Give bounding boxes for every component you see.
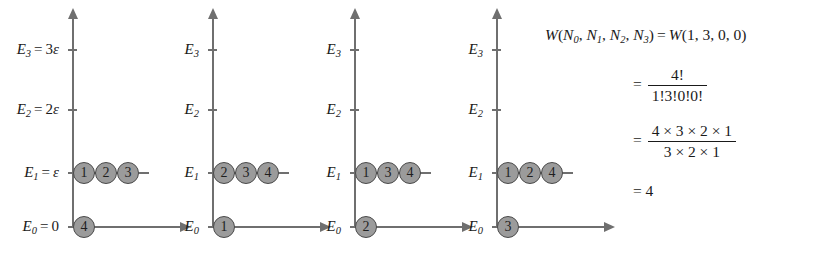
level-tick-E2 (492, 109, 501, 111)
equation-block: W(N0, N1, N2, N3) = W(1, 3, 0, 0)= 4!1!3… (545, 14, 836, 229)
particle-ball: 1 (497, 162, 519, 184)
level-tick-E3 (350, 49, 359, 51)
level-label-E3: E3 (251, 42, 341, 61)
equation-line-4: = 4 (633, 182, 653, 200)
particle-ball: 2 (355, 216, 377, 238)
level-label-E1: E1 (393, 165, 483, 184)
level-label-E2: E2 (109, 102, 199, 121)
particle-ball: 4 (73, 216, 95, 238)
level-tick-E2 (68, 109, 77, 111)
level-label-E1: E1 (251, 165, 341, 184)
level-label-E3: E3 = 3ε (0, 42, 59, 61)
y-axis-arrowhead (492, 8, 502, 19)
level-label-E0: E0 (109, 219, 199, 238)
level-tick-E2 (208, 109, 217, 111)
level-label-E2: E2 (393, 102, 483, 121)
level-label-E0: E0 (393, 219, 483, 238)
level-label-E3: E3 (393, 42, 483, 61)
level-label-E0: E0 = 0 (0, 219, 59, 238)
level-tick-E3 (492, 49, 501, 51)
level-tick-E3 (68, 49, 77, 51)
energy-level-diagram: E3 = 3εE2 = 2εE1 = ε123E0 = 04E3E2E1234E… (0, 0, 836, 264)
particle-ball: 1 (73, 162, 95, 184)
particle-ball: 2 (213, 162, 235, 184)
level-label-E1: E1 = ε (0, 165, 59, 184)
y-axis-arrowhead (208, 8, 218, 19)
level-label-E3: E3 (109, 42, 199, 61)
level-tick-E3 (208, 49, 217, 51)
particle-ball: 1 (213, 216, 235, 238)
level-label-E2: E2 (251, 102, 341, 121)
equation-line-1: W(N0, N1, N2, N3) = W(1, 3, 0, 0) (545, 26, 746, 45)
equation-line-2: = 4!1!3!0!0! (633, 66, 709, 105)
level-label-E2: E2 = 2ε (0, 102, 59, 121)
equation-line-3: = 4 × 3 × 2 × 13 × 2 × 1 (633, 122, 738, 161)
y-axis-arrowhead (68, 8, 78, 19)
particle-ball: 3 (497, 216, 519, 238)
particle-ball: 2 (519, 162, 541, 184)
level-tick-E2 (350, 109, 359, 111)
level-label-E1: E1 (109, 165, 199, 184)
particle-ball: 1 (355, 162, 377, 184)
y-axis-arrowhead (350, 8, 360, 19)
level-label-E0: E0 (251, 219, 341, 238)
